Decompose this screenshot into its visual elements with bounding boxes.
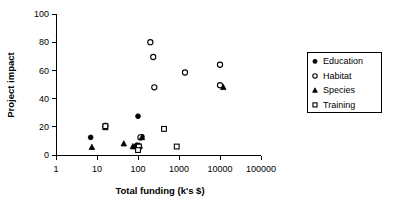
data-point-training <box>162 127 167 132</box>
data-point-training <box>174 144 179 149</box>
data-point-habitat <box>148 40 153 45</box>
data-point-training <box>103 124 108 129</box>
chart-svg: 020406080100 110100100010000100000 Total… <box>0 0 393 209</box>
data-points-group <box>88 40 226 153</box>
legend-label: Training <box>323 100 355 110</box>
x-axis-tick-labels: 110100100010000100000 <box>53 164 276 174</box>
series-education <box>88 114 144 148</box>
x-tick-label: 10 <box>92 164 102 174</box>
legend-label: Habitat <box>323 71 352 81</box>
x-axis-ticks <box>56 156 261 161</box>
legend-marker-habitat <box>313 74 317 78</box>
y-tick-label: 20 <box>39 122 49 132</box>
axes-group <box>56 14 261 156</box>
series-species <box>89 84 226 149</box>
data-point-education <box>136 114 141 119</box>
legend-marker-education <box>313 59 317 63</box>
y-axis-ticks <box>52 14 57 155</box>
data-point-habitat <box>151 54 156 59</box>
data-point-habitat <box>217 62 222 67</box>
series-habitat <box>103 40 223 140</box>
legend-label: Education <box>323 56 363 66</box>
y-tick-label: 100 <box>34 9 49 19</box>
data-point-habitat <box>182 70 187 75</box>
x-tick-label: 10000 <box>207 164 232 174</box>
data-point-education <box>88 135 93 140</box>
legend-label: Species <box>323 85 356 95</box>
y-axis-tick-labels: 020406080100 <box>34 9 49 160</box>
scatter-chart-figure: 020406080100 110100100010000100000 Total… <box>0 0 393 209</box>
legend-marker-training <box>313 103 317 107</box>
x-axis-title: Total funding (k's $) <box>115 185 204 196</box>
y-tick-label: 80 <box>39 37 49 47</box>
data-point-species <box>121 141 127 146</box>
y-axis-title: Project impact <box>5 51 16 117</box>
x-tick-label: 1 <box>53 164 58 174</box>
x-tick-label: 100000 <box>246 164 276 174</box>
x-tick-label: 1000 <box>169 164 189 174</box>
y-tick-label: 40 <box>39 94 49 104</box>
y-tick-label: 60 <box>39 66 49 76</box>
x-tick-label: 100 <box>130 164 145 174</box>
chart-legend: EducationHabitatSpeciesTraining <box>308 53 382 113</box>
data-point-training <box>136 148 141 153</box>
data-point-species <box>89 144 95 149</box>
y-tick-label: 0 <box>44 150 49 160</box>
data-point-habitat <box>152 85 157 90</box>
